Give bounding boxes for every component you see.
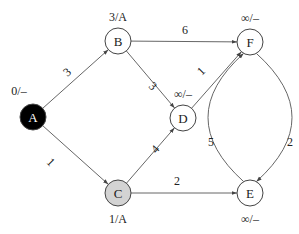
node-b-label: B — [114, 34, 123, 49]
node-f-distance-label: ∞/– — [241, 11, 260, 25]
edge-weight-f-e: 2 — [287, 135, 293, 149]
edges-layer — [43, 41, 292, 193]
edge-weight-d-f: 1 — [194, 64, 208, 78]
node-f-label: F — [246, 35, 253, 50]
node-a-distance-label: 0/– — [11, 84, 27, 98]
edge-d-f — [192, 52, 242, 108]
node-d-distance-label: ∞/– — [174, 87, 193, 101]
node-c-label: C — [114, 186, 123, 201]
edge-weight-b-f: 6 — [182, 23, 188, 37]
node-e-label: E — [246, 186, 254, 201]
edge-b-d — [126, 51, 174, 108]
edge-b-f — [131, 41, 237, 42]
node-c-distance-label: 1/A — [109, 212, 127, 226]
edge-weight-a-c: 1 — [44, 155, 58, 169]
node-a: A0/– — [11, 84, 46, 130]
edge-f-e — [256, 53, 292, 181]
edge-e-f — [208, 53, 244, 181]
edge-weight-c-e: 2 — [174, 174, 180, 188]
node-e: E∞/– — [237, 180, 263, 226]
node-d-label: D — [178, 111, 187, 126]
node-e-distance-label: ∞/– — [241, 212, 260, 226]
node-d: D∞/– — [170, 87, 196, 131]
node-b: B3/A — [105, 10, 131, 54]
edge-c-d — [127, 128, 175, 183]
node-c: C1/A — [105, 180, 131, 226]
edge-a-b — [43, 50, 109, 109]
node-b-distance-label: 3/A — [109, 10, 127, 24]
node-f: F∞/– — [237, 11, 263, 55]
nodes-layer: A0/–B3/AC1/AD∞/–E∞/–F∞/– — [11, 10, 263, 226]
edge-weight-b-d: 3 — [146, 79, 160, 93]
edge-weight-e-f: 5 — [208, 135, 214, 149]
node-a-label: A — [28, 110, 38, 125]
edge-weight-a-b: 3 — [60, 65, 74, 79]
graph-diagram: 316342152 A0/–B3/AC1/AD∞/–E∞/–F∞/– — [0, 0, 299, 234]
